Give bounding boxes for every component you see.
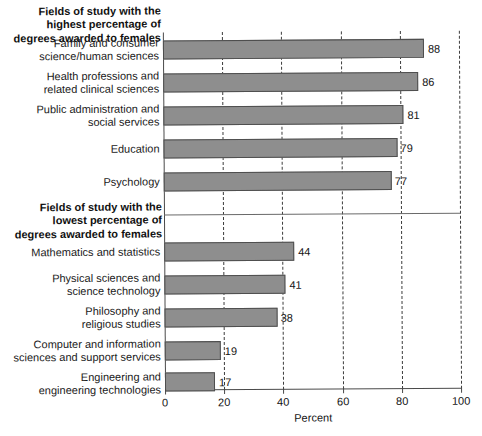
- category-label-mathematics-and-statistics: Mathematics and statistics: [2, 245, 160, 259]
- xtick-label-40: 40: [268, 396, 298, 408]
- bar-family-and-consumer-science: [163, 39, 424, 60]
- bar-value-19: 19: [225, 346, 237, 357]
- bar-value-77: 77: [395, 176, 407, 187]
- bar-value-81: 81: [407, 110, 419, 121]
- xtick-label-100: 100: [446, 395, 476, 407]
- xtick-0: [165, 389, 166, 394]
- xtick-label-20: 20: [209, 396, 239, 408]
- bar-value-41: 41: [289, 280, 301, 291]
- bar-physical-sciences: [164, 275, 285, 295]
- bar-value-17: 17: [219, 377, 231, 388]
- category-label-education: Education: [2, 142, 160, 156]
- bar-engineering-technologies: [165, 372, 215, 391]
- xtick-label-0: 0: [150, 396, 180, 408]
- xtick-60: [343, 388, 344, 393]
- category-label-computer-and-information-sciences: Computer and information sciences and su…: [0, 337, 161, 364]
- bar-computer-and-information-sciences: [165, 341, 221, 360]
- bar-psychology: [164, 171, 392, 191]
- bar-education: [164, 138, 398, 158]
- xtick-100: [461, 388, 462, 393]
- bar-philosophy-and-religious-studies: [165, 308, 278, 328]
- bar-value-44: 44: [298, 247, 310, 258]
- xtick-label-60: 60: [328, 395, 358, 407]
- xtick-label-80: 80: [387, 395, 417, 407]
- percent-of-degrees-awarded-to-females-bar-chart: Fields of study with the highest percent…: [0, 0, 482, 436]
- panel-divider-line: [164, 213, 460, 216]
- bar-value-86: 86: [422, 77, 434, 88]
- xtick-20: [224, 389, 225, 394]
- bar-value-38: 38: [281, 313, 293, 324]
- category-label-philosophy-and-religious-studies: Philosophy and religious studies: [3, 304, 161, 331]
- x-axis-title: Percent: [165, 411, 461, 425]
- xtick-80: [402, 388, 403, 393]
- bar-value-88: 88: [428, 44, 440, 55]
- bar-health-professions: [163, 72, 418, 93]
- category-label-family-and-consumer-science: Family and consumer science/human scienc…: [1, 36, 159, 63]
- bar-mathematics-and-statistics: [164, 242, 294, 262]
- category-label-health-professions: Health professions and related clinical …: [1, 69, 159, 96]
- bar-value-79: 79: [401, 143, 413, 154]
- section-heading-lowest: Fields of study with the lowest percenta…: [4, 200, 162, 241]
- gridline-100: [459, 31, 462, 389]
- category-label-public-administration: Public administration and social service…: [1, 102, 159, 129]
- xtick-40: [283, 389, 284, 394]
- category-label-engineering-technologies: Engineering and engineering technologies: [3, 370, 161, 397]
- plot-area: 88 86 81 79 77 44 41 38 19 17 0 20 40 60…: [163, 31, 461, 391]
- category-label-physical-sciences: Physical sciences and science technology: [2, 271, 160, 298]
- category-label-psychology: Psychology: [2, 175, 160, 189]
- bar-public-administration: [163, 105, 403, 125]
- figure-canvas: Fields of study with the highest percent…: [0, 0, 482, 436]
